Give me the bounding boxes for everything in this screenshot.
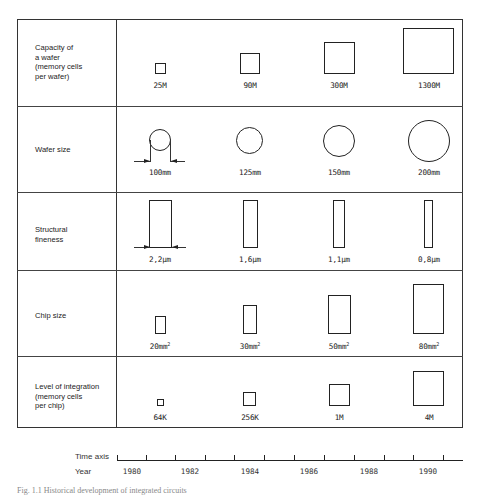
- row-label-wafer-capacity: Capacity of a wafer (memory cells per wa…: [35, 43, 82, 81]
- figure-caption: Fig. 1.1 Historical development of integ…: [17, 486, 187, 495]
- year-tick-label: 1986: [289, 467, 329, 476]
- wafer-size-value: 125mm: [220, 168, 280, 177]
- row-label-structural-fineness: Structural fineness: [35, 225, 68, 244]
- wafer-capacity-square-icon: [324, 42, 355, 74]
- arrowhead-right-icon: [144, 159, 150, 163]
- structural-fineness-value: 1,1µm: [309, 255, 369, 264]
- wafer-capacity-value: 25M: [130, 81, 190, 90]
- chip-size-value: 80mm2: [399, 341, 459, 351]
- axis-tick: [117, 455, 118, 460]
- arrowhead-left-icon: [171, 159, 177, 163]
- wafer-circle-icon: [149, 129, 171, 151]
- axis-tick: [205, 455, 206, 460]
- dimension-extension-line: [150, 140, 151, 162]
- axis-tick: [384, 455, 385, 460]
- time-axis-label: Time axis: [75, 452, 109, 461]
- integration-square-icon: [329, 384, 350, 406]
- axis-tick: [234, 455, 235, 460]
- axis-tick: [354, 455, 355, 460]
- row-divider: [17, 356, 463, 357]
- wafer-size-value: 100mm: [130, 168, 190, 177]
- wafer-circle-icon: [236, 127, 263, 154]
- row-divider: [17, 192, 463, 193]
- integration-square-icon: [157, 399, 164, 406]
- integration-value: 1M: [309, 413, 369, 422]
- axis-tick: [413, 455, 414, 460]
- wafer-circle-icon: [323, 125, 355, 157]
- structural-fineness-value: 1,6µm: [220, 255, 280, 264]
- wafer-size-value: 200mm: [399, 168, 459, 177]
- integration-square-icon: [243, 392, 256, 406]
- row-divider: [17, 270, 463, 271]
- arrowhead-right-icon: [144, 245, 150, 249]
- row-divider: [17, 106, 463, 107]
- wafer-capacity-square-icon: [403, 28, 454, 74]
- chip-rectangle-icon: [413, 284, 444, 334]
- year-tick-label: 1980: [112, 467, 152, 476]
- chip-size-value: 50mm2: [309, 341, 369, 351]
- chip-size-value: 20mm2: [130, 341, 190, 351]
- chip-rectangle-icon: [328, 295, 351, 334]
- axis-tick: [324, 455, 325, 460]
- structure-rectangle-icon: [333, 200, 345, 248]
- axis-tick: [146, 455, 147, 460]
- year-tick-label: 1988: [349, 467, 389, 476]
- structure-rectangle-icon: [243, 200, 258, 248]
- wafer-capacity-value: 1300M: [399, 81, 459, 90]
- chip-rectangle-icon: [243, 305, 257, 334]
- wafer-capacity-value: 300M: [309, 81, 369, 90]
- wafer-circle-icon: [408, 120, 450, 162]
- structure-rectangle-icon: [149, 200, 172, 248]
- time-axis-line: [117, 460, 463, 461]
- row-label-chip-size: Chip size: [35, 311, 66, 321]
- wafer-capacity-square-icon: [155, 63, 166, 74]
- year-tick-label: 1990: [408, 467, 448, 476]
- row-label-wafer-size: Wafer size: [35, 145, 71, 155]
- integration-value: 256K: [220, 413, 280, 422]
- integration-value: 4M: [399, 413, 459, 422]
- wafer-capacity-square-icon: [240, 53, 260, 74]
- axis-tick: [294, 455, 295, 460]
- integration-value: 64K: [130, 413, 190, 422]
- structural-fineness-value: 2,2µm: [130, 255, 190, 264]
- structure-rectangle-icon: [424, 200, 433, 248]
- chip-rectangle-icon: [155, 316, 166, 334]
- axis-tick: [443, 455, 444, 460]
- year-axis-label: Year: [75, 467, 91, 476]
- row-label-level-of-integration: Level of integration (memory cells per c…: [35, 382, 99, 411]
- chip-size-value: 30mm2: [220, 341, 280, 351]
- label-column-divider: [116, 19, 117, 428]
- axis-tick: [175, 455, 176, 460]
- year-tick-label: 1984: [230, 467, 270, 476]
- integration-square-icon: [413, 371, 444, 406]
- axis-tick: [264, 455, 265, 460]
- wafer-capacity-value: 90M: [220, 81, 280, 90]
- arrowhead-left-icon: [172, 245, 178, 249]
- wafer-size-value: 150mm: [309, 168, 369, 177]
- structural-fineness-value: 0,8µm: [399, 255, 459, 264]
- year-tick-label: 1982: [170, 467, 210, 476]
